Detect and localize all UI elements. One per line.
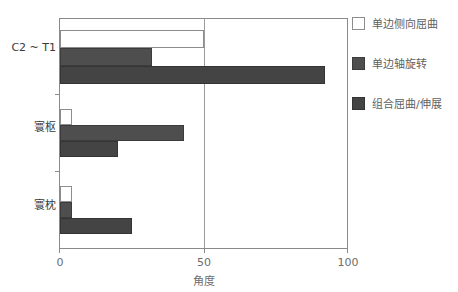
category-label-atlantooccipital: 寰枕	[0, 196, 56, 212]
gridline-x-50	[204, 18, 205, 248]
legend-swatch-icon-axial-rotation	[352, 57, 365, 70]
bar-atlantooccipital-axial-rotation	[60, 202, 72, 218]
bar-c2-t1-axial-rotation	[60, 48, 152, 66]
bar-atlantoaxial-combined-flexion-extension	[60, 141, 118, 157]
x-tick-label-50: 50	[197, 256, 211, 269]
chart-figure: 0 50 100 角度 C2 ~ T1 寰枢 寰枕 单边侧向屈曲 单边轴旋转 组…	[0, 0, 458, 292]
x-axis-title: 角度	[193, 272, 215, 288]
bar-atlantoaxial-lateral-bending	[60, 109, 72, 125]
legend-item-axial-rotation: 单边轴旋转	[352, 56, 427, 70]
legend-label-combined-flexion-extension: 组合屈曲/伸展	[372, 95, 442, 111]
legend-label-lateral-bending: 单边侧向屈曲	[372, 15, 438, 31]
y-axis-tick-2	[55, 171, 60, 172]
x-tick-100	[347, 249, 348, 253]
x-tick-label-100: 100	[338, 256, 359, 269]
x-tick-label-0: 0	[57, 256, 64, 269]
legend-item-lateral-bending: 单边侧向屈曲	[352, 16, 438, 30]
category-label-atlantoaxial: 寰枢	[0, 118, 56, 134]
bar-atlantooccipital-combined-flexion-extension	[60, 218, 132, 234]
legend-label-axial-rotation: 单边轴旋转	[372, 55, 427, 71]
category-label-c2-t1: C2 ~ T1	[0, 41, 56, 54]
legend-item-combined-flexion-extension: 组合屈曲/伸展	[352, 96, 442, 110]
bar-c2-t1-lateral-bending	[60, 30, 204, 48]
bar-atlantoaxial-axial-rotation	[60, 125, 184, 141]
bar-atlantooccipital-lateral-bending	[60, 186, 72, 202]
y-axis-tick-1	[55, 94, 60, 95]
legend-swatch-icon-lateral-bending	[352, 17, 365, 30]
plot-area: 0 50 100 角度	[60, 18, 348, 248]
legend-swatch-icon-combined-flexion-extension	[352, 97, 365, 110]
plot-frame-right	[347, 18, 348, 248]
x-tick-50	[204, 249, 205, 253]
bar-c2-t1-combined-flexion-extension	[60, 66, 325, 84]
x-tick-0	[59, 249, 60, 253]
